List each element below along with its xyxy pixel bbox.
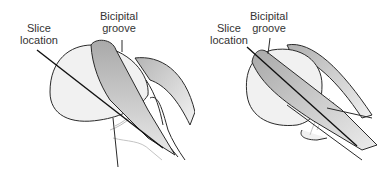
label-line: Bicipital	[100, 10, 138, 22]
label-line: groove	[250, 22, 288, 34]
bicipital-groove-label: Bicipital groove	[250, 10, 288, 34]
panel-right: Slice location Bicipital groove	[192, 0, 387, 177]
label-line: Slice	[20, 22, 58, 34]
label-line: location	[210, 34, 248, 46]
label-line: groove	[100, 22, 138, 34]
slice-location-label: Slice location	[210, 22, 248, 46]
bicipital-groove-label: Bicipital groove	[100, 10, 138, 34]
label-line: location	[20, 34, 58, 46]
panel-left: Slice location Bicipital groove	[0, 0, 195, 177]
slice-location-label: Slice location	[20, 22, 58, 46]
label-line: Slice	[210, 22, 248, 34]
label-line: Bicipital	[250, 10, 288, 22]
